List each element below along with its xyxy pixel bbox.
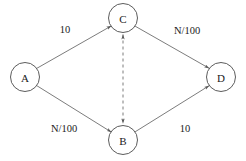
node-c: C [109, 4, 138, 33]
graph-diagram: 10 N/100 N/100 10 A B [0, 0, 246, 161]
node-c-label: C [119, 13, 126, 25]
edge-b-to-d: 10 [135, 86, 210, 134]
edge-b-to-d-label: 10 [180, 123, 191, 134]
edge-a-to-c-label: 10 [60, 24, 71, 35]
edge-a-to-c: 10 [37, 24, 112, 69]
node-d-label: D [217, 72, 225, 84]
edge-a-to-b: N/100 [37, 86, 112, 134]
edge-a-to-c-line [37, 26, 112, 69]
node-a-label: A [21, 72, 29, 84]
node-d: D [207, 63, 236, 92]
edge-b-to-d-line [135, 86, 210, 133]
graph-canvas: 10 N/100 N/100 10 A B [0, 0, 246, 161]
node-b: B [109, 126, 138, 155]
node-a: A [11, 63, 40, 92]
edge-c-to-d-label: N/100 [174, 25, 200, 36]
node-b-label: B [119, 135, 126, 147]
edge-a-to-b-label: N/100 [51, 123, 77, 134]
edge-c-to-d: N/100 [135, 25, 210, 69]
